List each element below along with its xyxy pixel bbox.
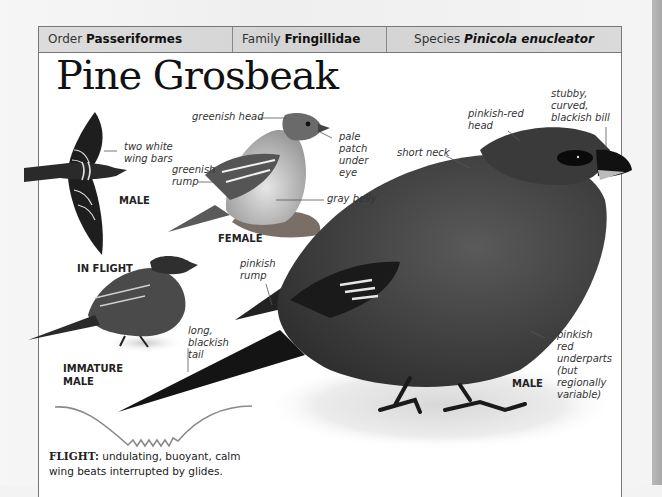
in-flight-male-label: MALE [119, 194, 150, 207]
in-flight-caption: IN FLIGHT [77, 262, 133, 275]
annotation-pale-patch-under-eye: pale patch under eye [339, 131, 368, 179]
annotation-stubby-bill: stubby, curved, blackish bill [551, 88, 610, 124]
annotation-greenish-rump: greenish rump [172, 164, 215, 188]
annotation-pinkish-red-underparts: pinkish red underparts (but regionally v… [557, 329, 612, 401]
flight-heading: FLIGHT: [49, 450, 99, 462]
annotation-gray-belly: gray belly [327, 193, 377, 205]
annotation-pinkish-rump: pinkish rump [240, 258, 276, 282]
annotation-pinkish-red-head: pinkish-red head [468, 108, 524, 132]
annotation-two-white-wing-bars: two white wing bars [124, 141, 173, 165]
annotation-short-neck: short neck [397, 147, 450, 159]
flight-description: FLIGHT: undulating, buoyant, calm wing b… [49, 449, 259, 479]
annotation-greenish-head: greenish head [192, 111, 264, 123]
annotation-long-blackish-tail: long, blackish tail [188, 325, 229, 361]
immature-male-caption: IMMATURE MALE [63, 362, 123, 388]
female-caption: FEMALE [218, 232, 263, 245]
male-caption: MALE [512, 377, 543, 390]
flight-path-diagram [55, 406, 252, 446]
in-flight-bird-illustration [24, 112, 127, 255]
